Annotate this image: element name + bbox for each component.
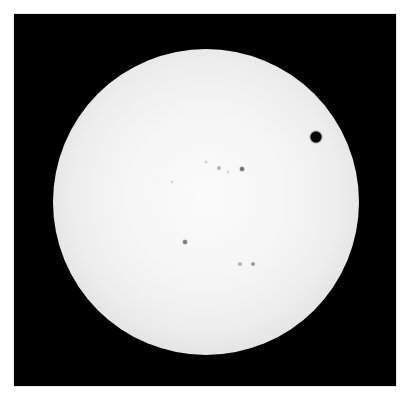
sunspot xyxy=(218,167,221,170)
sunspot xyxy=(183,240,187,244)
sunspot xyxy=(205,161,207,163)
solar-disk xyxy=(53,49,359,355)
sunspot xyxy=(227,171,229,173)
sunspot xyxy=(252,263,255,266)
sunspot xyxy=(239,263,242,266)
venus-silhouette xyxy=(311,132,322,143)
sunspot xyxy=(171,181,173,183)
sunspot xyxy=(240,167,244,171)
